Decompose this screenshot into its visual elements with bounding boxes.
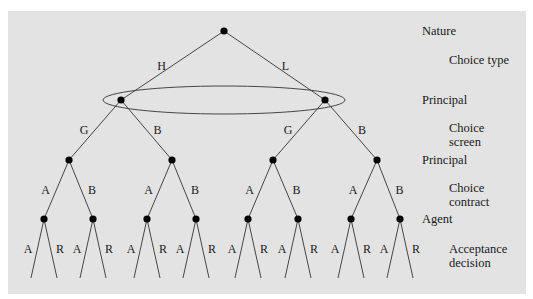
agent-node bbox=[143, 215, 150, 222]
principal-node bbox=[321, 96, 328, 103]
edge-label-g: G bbox=[80, 123, 89, 137]
stage-label: Choice type bbox=[449, 53, 510, 67]
agent-node bbox=[294, 215, 301, 222]
edge-label-b: B bbox=[358, 123, 366, 137]
principal-node bbox=[65, 156, 72, 163]
stage-label: Agent bbox=[422, 212, 453, 226]
agent-node bbox=[244, 215, 251, 222]
edge-label-accept: A bbox=[176, 242, 185, 256]
information-set-ellipse bbox=[103, 86, 345, 114]
nature-node bbox=[220, 27, 227, 34]
edge-label-a: A bbox=[349, 183, 358, 197]
stage-label: Principal bbox=[422, 153, 468, 167]
edge-labels: HLGBGBABABABABARARARARARARARAR bbox=[24, 59, 420, 257]
edge-label-b: B bbox=[292, 183, 300, 197]
tree-edge bbox=[183, 219, 196, 278]
edge-label-reject: R bbox=[208, 242, 216, 256]
edge-label-b: B bbox=[153, 123, 161, 137]
edge-label-a: A bbox=[41, 183, 50, 197]
edge-label-l: L bbox=[282, 59, 289, 73]
edge-label-reject: R bbox=[159, 242, 167, 256]
stage-labels: NatureChoice typePrincipalChoicescreenPr… bbox=[422, 24, 510, 270]
principal-node bbox=[117, 96, 124, 103]
tree-edges bbox=[31, 31, 413, 278]
edge-label-accept: A bbox=[73, 242, 82, 256]
tree-edge bbox=[134, 219, 147, 278]
edge-label-reject: R bbox=[56, 242, 64, 256]
edge-label-reject: R bbox=[105, 242, 113, 256]
tree-edge bbox=[69, 100, 121, 160]
edge-label-accept: A bbox=[331, 242, 340, 256]
agent-node bbox=[192, 215, 199, 222]
edge-label-b: B bbox=[191, 183, 199, 197]
edge-label-accept: A bbox=[380, 242, 389, 256]
agent-node bbox=[347, 215, 354, 222]
edge-label-b: B bbox=[88, 183, 96, 197]
tree-edge bbox=[31, 219, 44, 278]
tree-edge bbox=[338, 219, 351, 278]
principal-node bbox=[168, 156, 175, 163]
edge-label-reject: R bbox=[363, 242, 371, 256]
tree-edge bbox=[387, 219, 400, 278]
tree-edge bbox=[285, 219, 298, 278]
stage-label: Choicecontract bbox=[449, 181, 490, 209]
principal-node bbox=[373, 156, 380, 163]
principal-node bbox=[269, 156, 276, 163]
edge-label-b: B bbox=[395, 183, 403, 197]
information-set-ellipse bbox=[103, 86, 345, 114]
tree-edge bbox=[325, 100, 377, 160]
edge-label-accept: A bbox=[24, 242, 33, 256]
stage-label: Acceptancedecision bbox=[449, 242, 508, 270]
edge-label-reject: R bbox=[412, 242, 420, 256]
agent-node bbox=[89, 215, 96, 222]
stage-label: Nature bbox=[422, 24, 456, 38]
edge-label-reject: R bbox=[260, 242, 268, 256]
agent-node bbox=[396, 215, 403, 222]
edge-label-accept: A bbox=[278, 242, 287, 256]
game-tree-diagram: HLGBGBABABABABARARARARARARARAR NatureCho… bbox=[0, 0, 533, 299]
edge-label-a: A bbox=[144, 183, 153, 197]
edge-label-g: G bbox=[284, 123, 293, 137]
tree-edge bbox=[235, 219, 248, 278]
edge-label-reject: R bbox=[310, 242, 318, 256]
edge-label-a: A bbox=[245, 183, 254, 197]
agent-node bbox=[40, 215, 47, 222]
edge-label-h: H bbox=[157, 59, 166, 73]
tree-edge bbox=[80, 219, 93, 278]
stage-label: Choicescreen bbox=[449, 121, 485, 149]
tree-edge bbox=[224, 31, 325, 100]
tree-edge bbox=[121, 31, 224, 100]
edge-label-accept: A bbox=[127, 242, 136, 256]
stage-label: Principal bbox=[422, 93, 468, 107]
edge-label-accept: A bbox=[228, 242, 237, 256]
